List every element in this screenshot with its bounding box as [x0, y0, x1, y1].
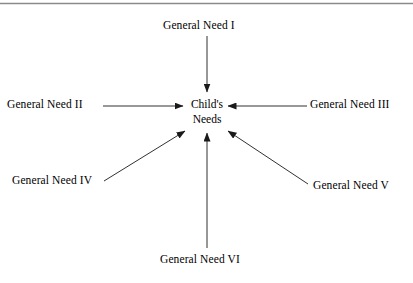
- node-label-general-need-1: General Need I: [163, 18, 235, 32]
- node-label-general-need-5: General Need V: [313, 178, 389, 192]
- arrow-need-4-to-center: [104, 131, 185, 181]
- figure-container: Child's Needs General Need I General Nee…: [0, 0, 413, 283]
- center-node-line-2: Needs: [186, 112, 228, 127]
- center-node-childs-needs: Child's Needs: [186, 97, 228, 126]
- arrow-need-5-to-center: [228, 131, 308, 184]
- node-label-general-need-4: General Need IV: [12, 173, 92, 187]
- center-node-line-1: Child's: [186, 97, 228, 112]
- node-label-general-need-2: General Need II: [7, 97, 83, 111]
- node-label-general-need-3: General Need III: [310, 97, 390, 111]
- node-label-general-need-6: General Need VI: [160, 252, 240, 266]
- diagram-canvas: [0, 0, 413, 283]
